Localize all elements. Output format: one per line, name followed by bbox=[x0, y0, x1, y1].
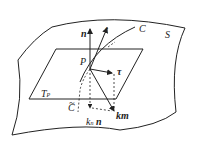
label-t: t bbox=[105, 25, 108, 35]
curve-c bbox=[80, 27, 135, 82]
label-c: C bbox=[139, 24, 146, 34]
curve-c-tilde bbox=[78, 69, 90, 112]
label-tau: τ bbox=[117, 67, 121, 77]
label-s: S bbox=[165, 30, 170, 40]
diagram: n t C S P τ TP ~C km kn n bbox=[0, 0, 199, 153]
km-vector bbox=[90, 69, 114, 111]
tau-vector bbox=[90, 69, 112, 73]
label-p: P bbox=[80, 57, 86, 67]
kn-to-km-dashed bbox=[92, 108, 112, 111]
label-c-tilde: ~C bbox=[68, 103, 75, 113]
surface-diagram-svg bbox=[0, 0, 199, 153]
label-tp: TP bbox=[41, 89, 50, 100]
label-km: km bbox=[116, 111, 129, 121]
label-n: n bbox=[81, 29, 87, 39]
label-kn-n: kn n bbox=[86, 117, 102, 128]
